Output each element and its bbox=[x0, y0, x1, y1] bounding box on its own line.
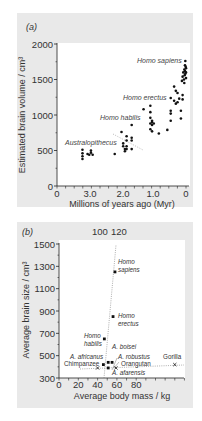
panel-b-y-title: Average brain size / cm³ bbox=[21, 262, 31, 359]
data-point bbox=[176, 101, 179, 104]
y-tick-label: 900 bbox=[39, 306, 55, 317]
data-point bbox=[169, 109, 172, 112]
data-point bbox=[149, 122, 152, 125]
data-point bbox=[181, 94, 184, 97]
x-tick-label: 1.0 bbox=[146, 188, 159, 199]
data-point bbox=[125, 139, 128, 142]
data-point bbox=[130, 124, 133, 127]
label-a-robustus: A. robustus bbox=[117, 353, 151, 360]
data-point bbox=[149, 104, 152, 107]
label-homo-habilis-2: habilis bbox=[84, 340, 103, 347]
x-tick-label: 20 bbox=[73, 379, 84, 390]
label-a-boisei: A. boisei bbox=[111, 343, 137, 350]
data-point bbox=[176, 92, 179, 95]
data-point bbox=[91, 153, 94, 156]
label-homo-sapiens-1: Homo bbox=[118, 258, 135, 265]
data-point bbox=[125, 135, 128, 138]
data-point bbox=[81, 152, 84, 155]
x-tick-label: 0 bbox=[56, 379, 61, 390]
data-point bbox=[185, 77, 188, 80]
data-point bbox=[184, 60, 187, 63]
x-tick-label: 0 bbox=[54, 188, 59, 199]
label-homo-erectus-1: Homo bbox=[118, 312, 135, 319]
top-tick-120: 120 bbox=[111, 226, 127, 237]
y-tick-label: 1300 bbox=[34, 261, 55, 272]
panel-b-x-title: Average body mass / kg bbox=[74, 391, 170, 401]
data-point bbox=[178, 97, 181, 100]
data-point bbox=[169, 97, 172, 100]
y-tick-label: 0 bbox=[48, 181, 53, 192]
label-australopithecus: Australopithecus bbox=[64, 139, 117, 147]
data-point bbox=[185, 67, 188, 70]
data-point bbox=[122, 142, 125, 145]
data-point bbox=[149, 111, 152, 114]
y-tick-label: 1500 bbox=[32, 74, 53, 85]
x-tick-label: 80 bbox=[131, 379, 142, 390]
data-point-a-africanus bbox=[102, 363, 105, 366]
data-point bbox=[125, 148, 128, 151]
data-point bbox=[81, 155, 84, 158]
y-tick-label: 1500 bbox=[34, 239, 55, 250]
x-tick-label: 0 bbox=[183, 188, 188, 199]
data-point bbox=[166, 129, 169, 132]
data-point bbox=[173, 100, 176, 103]
label-a-afarensis: A. afarensis bbox=[111, 369, 146, 376]
data-point bbox=[113, 153, 116, 156]
y-tick-label: 500 bbox=[39, 350, 55, 361]
data-point bbox=[122, 145, 125, 148]
data-point bbox=[81, 158, 84, 161]
top-tick-100: 100 bbox=[92, 226, 108, 237]
data-point-a-boisei bbox=[107, 361, 110, 364]
y-tick-label: 500 bbox=[37, 145, 53, 156]
data-point-homo-sapiens bbox=[114, 271, 117, 274]
data-point bbox=[130, 139, 133, 142]
y-tick-label: 1100 bbox=[35, 283, 55, 294]
y-tick-label: 700 bbox=[39, 328, 55, 339]
panel-b: (b) 100 120 300500700900110013001500 020… bbox=[17, 222, 193, 408]
data-point bbox=[169, 119, 172, 122]
y-tick-label: 300 bbox=[39, 373, 55, 384]
data-point-homo-erectus bbox=[112, 315, 115, 318]
data-point bbox=[88, 153, 91, 156]
label-orangutan: Orangutan bbox=[121, 360, 151, 368]
x-tick-label: 60 bbox=[112, 379, 123, 390]
data-point bbox=[158, 132, 161, 135]
label-homo-habilis: Homo habilis bbox=[100, 114, 141, 121]
data-point bbox=[130, 148, 133, 151]
data-point bbox=[185, 71, 188, 74]
data-point bbox=[125, 145, 128, 148]
label-homo-sapiens-2: sapiens bbox=[118, 266, 141, 274]
panel-a-x-title: Millions of years ago (Myr) bbox=[69, 199, 175, 209]
data-point bbox=[173, 85, 176, 88]
panel-b-label: (b) bbox=[22, 227, 33, 237]
data-point bbox=[181, 98, 184, 101]
panel-a-y-title: Estimated brain volume / cm³ bbox=[17, 57, 27, 174]
data-point bbox=[183, 82, 186, 85]
label-a-africanus: A. africanus bbox=[69, 353, 104, 360]
data-point bbox=[81, 148, 84, 151]
label-homo-sapiens: Homo sapiens bbox=[137, 57, 182, 65]
data-point-a-robustus bbox=[111, 361, 114, 364]
data-point bbox=[169, 112, 172, 115]
panel-a: (a) 0500100015002000 03.02.01.00 Estimat… bbox=[17, 13, 193, 209]
data-point bbox=[180, 109, 183, 112]
figure: (a) 0500100015002000 03.02.01.00 Estimat… bbox=[0, 0, 202, 421]
y-tick-label: 1000 bbox=[32, 110, 53, 121]
label-homo-erectus-2: erectus bbox=[118, 320, 140, 327]
label-chimpanzee: Chimpanzee bbox=[64, 360, 100, 368]
y-tick-label: 2000 bbox=[32, 39, 53, 50]
x-tick-label: 2.0 bbox=[116, 188, 129, 199]
x-tick-label: 40 bbox=[92, 379, 103, 390]
data-point bbox=[149, 117, 152, 120]
x-tick-label: 3.0 bbox=[83, 188, 96, 199]
data-point bbox=[130, 136, 133, 139]
data-point-a-afarensis bbox=[107, 367, 110, 370]
data-point bbox=[152, 122, 155, 125]
data-point-homo-habilis bbox=[103, 338, 106, 341]
data-point bbox=[142, 108, 145, 111]
panel-a-label: (a) bbox=[26, 22, 37, 32]
data-point bbox=[124, 150, 127, 153]
label-homo-habilis-1: Homo bbox=[84, 332, 101, 339]
data-point bbox=[180, 117, 183, 120]
data-point bbox=[149, 128, 152, 131]
